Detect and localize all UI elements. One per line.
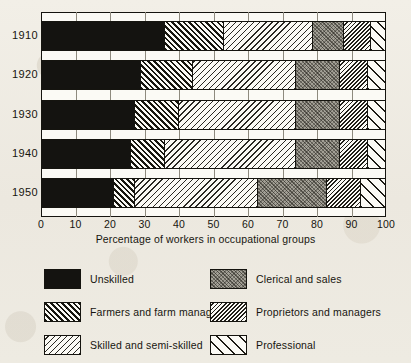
bar-segment-farmers [141, 61, 192, 89]
bar-segment-farmers [165, 22, 223, 50]
bar-segment-professional [368, 140, 385, 168]
bar-row [41, 60, 386, 90]
bar-segment-skilled [193, 61, 296, 89]
plot-area [41, 12, 386, 217]
bar-segment-professional [361, 179, 385, 207]
bar-row [41, 139, 386, 169]
bar-segment-professional [368, 101, 385, 129]
legend-row: Farmers and farm managersProprietors and… [44, 295, 394, 328]
x-tick-label: 80 [311, 218, 323, 230]
legend-swatch-farmers [44, 302, 81, 322]
x-tick-label: 50 [207, 218, 219, 230]
legend-label-farmers: Farmers and farm managers [90, 306, 227, 318]
legend-swatch-skilled [44, 335, 81, 355]
legend-row: Skilled and semi-skilledProfessional [44, 328, 394, 361]
bar-segment-skilled [224, 22, 313, 50]
legend-item-farmers: Farmers and farm managers [44, 302, 210, 322]
bar-segment-skilled [165, 140, 295, 168]
x-tick-label: 100 [377, 218, 395, 230]
x-tick-label: 70 [276, 218, 288, 230]
x-tick-label: 90 [345, 218, 357, 230]
x-axis-ticks: 0102030405060708090100 [41, 218, 386, 234]
year-label: 1950 [4, 186, 38, 198]
year-label: 1910 [4, 29, 38, 41]
bar-segment-skilled [179, 101, 296, 129]
legend: UnskilledClerical and salesFarmers and f… [44, 262, 394, 361]
legend-label-proprietors: Proprietors and managers [256, 306, 381, 318]
x-tick-label: 40 [173, 218, 185, 230]
bar-row [41, 178, 386, 208]
bar-segment-professional [368, 61, 385, 89]
legend-swatch-proprietors [210, 302, 247, 322]
bar-segment-farmers [131, 140, 165, 168]
stacked-bar-chart: 19101920193019401950 0102030405060708090… [0, 0, 411, 363]
bar-segment-clerical [296, 101, 341, 129]
year-label: 1940 [4, 147, 38, 159]
legend-item-unskilled: Unskilled [44, 269, 210, 289]
bar-segment-clerical [296, 61, 341, 89]
legend-item-clerical: Clerical and sales [210, 269, 390, 289]
stacked-bar [41, 60, 386, 90]
legend-label-professional: Professional [256, 339, 316, 351]
stacked-bar [41, 100, 386, 130]
bar-segment-unskilled [42, 22, 165, 50]
bar-row [41, 100, 386, 130]
bar-segment-unskilled [42, 101, 135, 129]
legend-label-skilled: Skilled and semi-skilled [90, 339, 203, 351]
axis-caption: Percentage of workers in occupational gr… [0, 233, 411, 245]
legend-label-clerical: Clerical and sales [256, 273, 342, 285]
x-tick-label: 60 [242, 218, 254, 230]
bar-segment-proprietors [327, 179, 361, 207]
bar-segment-clerical [296, 140, 341, 168]
legend-swatch-professional [210, 335, 247, 355]
x-tick-label: 30 [138, 218, 150, 230]
stacked-bar [41, 178, 386, 208]
stacked-bar [41, 139, 386, 169]
bar-segment-professional [371, 22, 385, 50]
legend-item-professional: Professional [210, 335, 390, 355]
stacked-bar [41, 21, 386, 51]
bar-segment-skilled [135, 179, 258, 207]
bar-segment-farmers [114, 179, 135, 207]
x-tick-label: 0 [38, 218, 44, 230]
bar-segment-proprietors [340, 101, 367, 129]
legend-item-skilled: Skilled and semi-skilled [44, 335, 210, 355]
bar-segment-proprietors [340, 61, 367, 89]
bar-segment-unskilled [42, 179, 114, 207]
year-label: 1930 [4, 108, 38, 120]
bar-segment-proprietors [344, 22, 371, 50]
bar-segment-proprietors [340, 140, 367, 168]
legend-label-unskilled: Unskilled [90, 273, 134, 285]
bar-segment-farmers [135, 101, 180, 129]
legend-swatch-unskilled [44, 269, 81, 289]
bar-segment-clerical [313, 22, 344, 50]
legend-row: UnskilledClerical and sales [44, 262, 394, 295]
legend-swatch-clerical [210, 269, 247, 289]
bar-segment-clerical [258, 179, 327, 207]
bar-row [41, 21, 386, 51]
x-tick-label: 10 [69, 218, 81, 230]
year-label: 1920 [4, 68, 38, 80]
x-tick-label: 20 [104, 218, 116, 230]
legend-item-proprietors: Proprietors and managers [210, 302, 390, 322]
bar-segment-unskilled [42, 140, 131, 168]
bar-segment-unskilled [42, 61, 141, 89]
